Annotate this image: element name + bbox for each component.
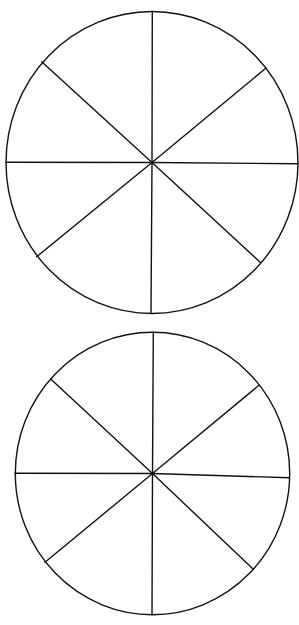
segment-divider-line xyxy=(152,163,261,263)
segment-divider-line xyxy=(153,474,254,570)
segment-divider-line xyxy=(42,62,152,163)
top-circle xyxy=(6,12,298,314)
segment-divider-line xyxy=(153,474,290,478)
segment-divider-line xyxy=(152,474,153,615)
segment-divider-line xyxy=(51,379,153,474)
segment-divider-line xyxy=(151,163,152,313)
segment-divider-line xyxy=(37,163,152,257)
segment-divider-line xyxy=(153,332,154,473)
segment-divider-line xyxy=(45,474,153,563)
segmented-circles-diagram xyxy=(0,0,299,625)
segment-divider-line xyxy=(152,163,298,164)
segment-divider-line xyxy=(152,68,266,162)
bottom-circle xyxy=(15,332,290,614)
segment-divider-line xyxy=(153,385,260,474)
